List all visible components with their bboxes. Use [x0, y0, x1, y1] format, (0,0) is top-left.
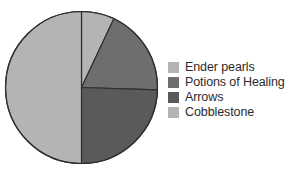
pie-chart-plot-area — [0, 0, 170, 171]
legend-swatch-ender-pearls — [168, 62, 179, 73]
legend-swatch-cobblestone — [168, 107, 179, 118]
legend-label-cobblestone: Cobblestone — [185, 106, 254, 119]
pie-chart-svg — [0, 0, 170, 171]
pie-slice-cobblestone[interactable] — [6, 12, 82, 164]
legend-swatch-arrows — [168, 92, 179, 103]
legend-item-ender-pearls[interactable]: Ender pearls — [168, 60, 297, 75]
pie-slice-arrows[interactable] — [82, 88, 158, 164]
chart-legend: Ender pearls Potions of Healing Arrows C… — [168, 60, 297, 120]
legend-item-cobblestone[interactable]: Cobblestone — [168, 105, 297, 120]
pie-chart-figure: Ender pearls Potions of Healing Arrows C… — [0, 0, 297, 171]
legend-item-potions-of-healing[interactable]: Potions of Healing — [168, 75, 297, 90]
legend-label-arrows: Arrows — [185, 91, 223, 104]
pie-slice-group — [6, 11, 158, 163]
legend-item-arrows[interactable]: Arrows — [168, 90, 297, 105]
legend-label-potions-of-healing: Potions of Healing — [185, 76, 285, 89]
legend-swatch-potions-of-healing — [168, 77, 179, 88]
legend-label-ender-pearls: Ender pearls — [185, 61, 255, 74]
